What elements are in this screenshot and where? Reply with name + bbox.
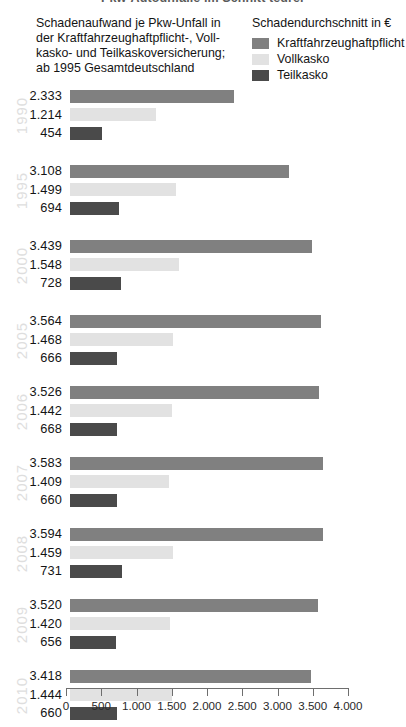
page-title: Schadenaufwand je Pkw-Unfall in der Kraf… [36, 16, 241, 76]
axis-tick [66, 688, 67, 696]
axis-tick [313, 688, 314, 696]
bar-value-label: 3.439 [0, 238, 62, 254]
axis-tick-label: 2.500 [228, 699, 257, 713]
bar-group-2005: 20053.5641.468666 [0, 313, 406, 371]
bar-value-label: 731 [0, 563, 62, 579]
axis-tick-label: 1.000 [122, 699, 151, 713]
bar-group-2007: 20073.5831.409660 [0, 455, 406, 513]
bar-teilkasko [70, 494, 117, 507]
bar-row: 656 [0, 634, 406, 652]
bar-row: 1.548 [0, 257, 406, 275]
bar-value-label: 454 [0, 125, 62, 141]
bar-vollkasko [70, 108, 156, 121]
bar-row: 3.418 [0, 668, 406, 686]
bar-teilkasko [70, 127, 102, 140]
legend-swatch-icon [252, 38, 269, 49]
bar-row: 1.214 [0, 107, 406, 125]
bar-row: 728 [0, 275, 406, 293]
bar-kraftfahrzeughaftpflicht [70, 90, 234, 103]
bar-kraftfahrzeughaftpflicht [70, 165, 289, 178]
bar-value-label: 3.520 [0, 597, 62, 613]
title-line-1: Schadenaufwand je Pkw-Unfall in [36, 16, 241, 31]
bar-row: 3.564 [0, 313, 406, 331]
bar-vollkasko [70, 546, 173, 559]
title-line-2: der Kraftfahrzeughaftpflicht-, Voll- [36, 31, 241, 46]
bar-kraftfahrzeughaftpflicht [70, 599, 318, 612]
bar-value-label: 1.442 [0, 403, 62, 419]
chart-x-axis: 05001.0001.5002.0002.5003.0003.5004.000 [0, 688, 406, 727]
bar-teilkasko [70, 352, 117, 365]
kicker-text: Pkw-Autounfälle im Schnitt teurer [0, 0, 406, 5]
kicker-headline: Pkw-Autounfälle im Schnitt teurer [0, 0, 406, 8]
bar-row: 1.409 [0, 474, 406, 492]
bar-value-label: 1.499 [0, 182, 62, 198]
bar-row: 3.108 [0, 163, 406, 181]
legend-swatch-icon [252, 54, 269, 65]
bar-group-2000: 20003.4391.548728 [0, 238, 406, 296]
bar-group-2008: 20083.5941.459731 [0, 526, 406, 584]
title-line-4: ab 1995 Gesamtdeutschland [36, 61, 241, 76]
bar-value-label: 3.583 [0, 455, 62, 471]
bar-kraftfahrzeughaftpflicht [70, 670, 311, 683]
bar-teilkasko [70, 636, 116, 649]
axis-tick [242, 688, 243, 696]
chart-legend: Schadendurchschnitt in € Kraftfahrzeugha… [252, 16, 406, 84]
bar-group-2009: 20093.5201.420656 [0, 597, 406, 655]
axis-tick [137, 688, 138, 696]
axis-tick-label: 2.000 [192, 699, 221, 713]
bar-value-label: 694 [0, 200, 62, 216]
bar-row: 1.468 [0, 332, 406, 350]
axis-tick [101, 688, 102, 696]
legend-title: Schadendurchschnitt in € [252, 16, 406, 31]
bar-row: 1.442 [0, 403, 406, 421]
bar-vollkasko [70, 404, 172, 417]
axis-tick-label: 4.000 [333, 699, 362, 713]
bar-row: 2.333 [0, 88, 406, 106]
bar-kraftfahrzeughaftpflicht [70, 386, 319, 399]
axis-tick-label: 0 [63, 699, 69, 713]
legend-item-teilkasko: Teilkasko [252, 68, 406, 84]
bar-group-1990: 19902.3331.214454 [0, 88, 406, 146]
legend-item-vollkasko: Vollkasko [252, 52, 406, 68]
bar-vollkasko [70, 333, 173, 346]
bar-kraftfahrzeughaftpflicht [70, 457, 323, 470]
bar-row: 660 [0, 492, 406, 510]
axis-tick [348, 688, 349, 696]
legend-item-label: Teilkasko [277, 69, 328, 82]
axis-tick [278, 688, 279, 696]
bar-group-2006: 20063.5261.442668 [0, 384, 406, 442]
bar-value-label: 656 [0, 634, 62, 650]
bar-row: 666 [0, 350, 406, 368]
legend-item-label: Kraftfahrzeughaftpflicht [277, 37, 404, 50]
legend-item-label: Vollkasko [277, 53, 329, 66]
bar-value-label: 1.548 [0, 257, 62, 273]
title-line-3: kasko- und Teilkaskoversicherung; [36, 46, 241, 61]
bar-value-label: 3.108 [0, 163, 62, 179]
bar-value-label: 3.594 [0, 526, 62, 542]
bar-value-label: 1.459 [0, 545, 62, 561]
bar-value-label: 3.526 [0, 384, 62, 400]
bar-teilkasko [70, 423, 117, 436]
bar-value-label: 668 [0, 421, 62, 437]
bar-value-label: 728 [0, 275, 62, 291]
bar-kraftfahrzeughaftpflicht [70, 240, 312, 253]
axis-tick-label: 500 [92, 699, 111, 713]
bar-row: 3.594 [0, 526, 406, 544]
bar-value-label: 660 [0, 492, 62, 508]
bar-value-label: 1.420 [0, 616, 62, 632]
bar-vollkasko [70, 475, 169, 488]
axis-tick [207, 688, 208, 696]
axis-tick [172, 688, 173, 696]
bar-value-label: 1.409 [0, 474, 62, 490]
bar-teilkasko [70, 565, 122, 578]
chart-header: Schadenaufwand je Pkw-Unfall in der Kraf… [0, 14, 406, 90]
bar-row: 1.499 [0, 182, 406, 200]
bar-row: 1.459 [0, 545, 406, 563]
bar-row: 3.526 [0, 384, 406, 402]
bar-value-label: 1.468 [0, 332, 62, 348]
bar-value-label: 1.214 [0, 107, 62, 123]
bar-vollkasko [70, 258, 179, 271]
axis-tick-label: 3.500 [298, 699, 327, 713]
bar-row: 731 [0, 563, 406, 581]
bar-value-label: 3.418 [0, 668, 62, 684]
